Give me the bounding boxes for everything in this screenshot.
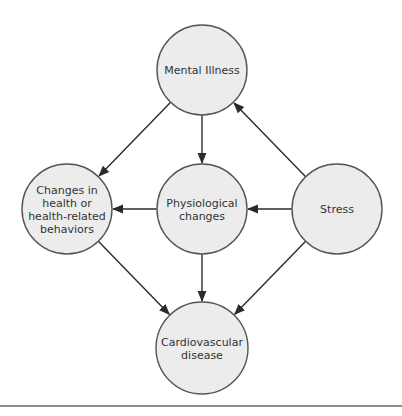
arrow-mental-to-changes: [99, 102, 171, 176]
node-changes: Changes inhealth orhealth-relatedbehavio…: [22, 164, 112, 254]
node-label: health or: [42, 197, 92, 210]
arrow-changes-to-cardio: [98, 241, 169, 314]
node-label: Cardiovascular: [161, 336, 243, 349]
node-label: health-related: [28, 210, 106, 223]
node-mental: Mental Illness: [157, 25, 247, 115]
arrow-stress-to-mental: [234, 103, 306, 177]
node-label: Physiological: [166, 197, 237, 210]
node-cardio: Cardiovasculardisease: [156, 302, 248, 394]
node-label: Stress: [320, 203, 354, 216]
node-label: changes: [179, 210, 225, 223]
node-physio: Physiologicalchanges: [157, 164, 247, 254]
arrow-stress-to-cardio: [235, 241, 306, 314]
node-label: behaviors: [40, 223, 94, 236]
node-label: disease: [181, 349, 223, 362]
node-label: Mental Illness: [164, 64, 240, 77]
nodes: Mental IllnessChanges inhealth orhealth-…: [22, 25, 382, 394]
causal-diagram: Mental IllnessChanges inhealth orhealth-…: [0, 0, 402, 416]
node-label: Changes in: [36, 184, 97, 197]
bottom-rule: [0, 405, 402, 407]
node-stress: Stress: [292, 164, 382, 254]
